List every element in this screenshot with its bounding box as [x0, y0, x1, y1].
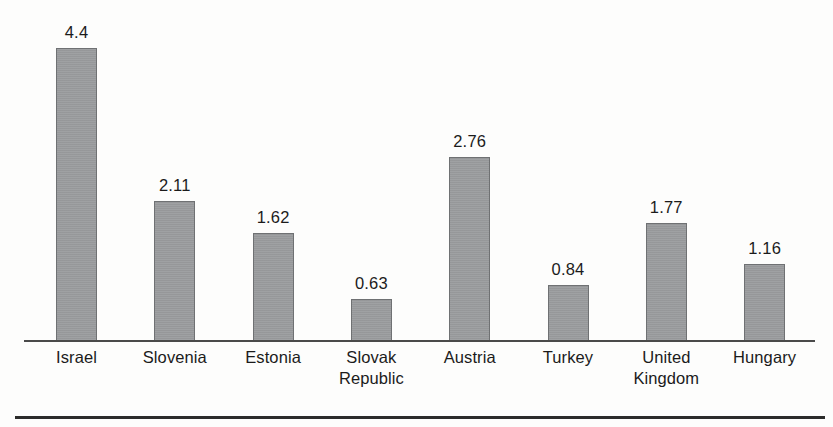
- bar-rect: [253, 233, 294, 341]
- bar-value-label: 4.4: [17, 23, 137, 42]
- category-axis: IsraelSloveniaEstoniaSlovakRepublicAustr…: [0, 347, 833, 399]
- category-label-line: Kingdom: [596, 368, 736, 389]
- bar-rect: [351, 299, 392, 341]
- bar-value-label: 0.63: [311, 274, 431, 293]
- bar-rect: [449, 157, 490, 341]
- bar-rect: [646, 223, 687, 341]
- bar-slovak-republic[interactable]: 0.63: [351, 0, 392, 341]
- bar-value-label: 1.16: [705, 239, 825, 258]
- bar-turkey[interactable]: 0.84: [548, 0, 589, 341]
- bar-value-label: 2.76: [410, 132, 530, 151]
- bar-value-label: 1.62: [213, 208, 333, 227]
- bar-rect: [548, 285, 589, 341]
- bottom-horizontal-rule: [15, 416, 825, 419]
- bar-value-label: 2.11: [115, 176, 235, 195]
- bar-rect: [744, 264, 785, 341]
- bar-value-label: 1.77: [606, 198, 726, 217]
- category-label-line: Republic: [301, 368, 441, 389]
- category-label-hungary: Hungary: [695, 347, 833, 368]
- bar-rect: [56, 48, 97, 341]
- x-axis-line: [24, 340, 815, 342]
- plot-area: 4.42.111.620.632.760.841.771.16: [0, 0, 833, 341]
- bar-united-kingdom[interactable]: 1.77: [646, 0, 687, 341]
- bar-estonia[interactable]: 1.62: [253, 0, 294, 341]
- bar-israel[interactable]: 4.4: [56, 0, 97, 341]
- bar-chart-figure: 4.42.111.620.632.760.841.771.16 IsraelSl…: [0, 0, 833, 427]
- bar-austria[interactable]: 2.76: [449, 0, 490, 341]
- category-label-line: Hungary: [695, 347, 833, 368]
- bar-slovenia[interactable]: 2.11: [154, 0, 195, 341]
- bar-hungary[interactable]: 1.16: [744, 0, 785, 341]
- bar-rect: [154, 201, 195, 341]
- bar-value-label: 0.84: [508, 260, 628, 279]
